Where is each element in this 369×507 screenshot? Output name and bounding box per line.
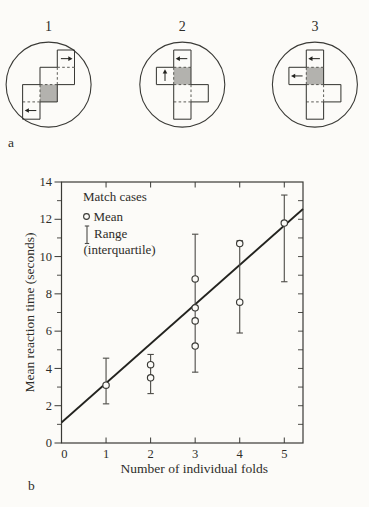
y-tick-label: 8 [46, 287, 52, 301]
y-axis-title: Mean reaction time (seconds) [22, 232, 37, 392]
reaction-time-chart: 02468101214012345Number of individual fo… [0, 160, 369, 507]
panel-a-label: a [8, 136, 14, 150]
mean-point [103, 382, 109, 388]
shaded-face [306, 67, 323, 84]
mean-point [192, 276, 198, 282]
mean-point [147, 375, 153, 381]
x-axis: 012345 [61, 182, 287, 461]
mean-point [237, 299, 243, 305]
fold-arrow-left-icon [176, 56, 188, 61]
x-axis-title: Number of individual folds [121, 461, 268, 476]
stimulus-3: 3 [272, 19, 357, 127]
error-bar-x5 [281, 195, 287, 282]
mean-point [192, 343, 198, 349]
stimulus-number: 1 [45, 19, 52, 34]
mean-point [237, 240, 243, 246]
y-tick-label: 12 [40, 212, 53, 226]
mean-point [192, 305, 198, 311]
mean-point [147, 362, 153, 368]
fold-arrow-left-icon [291, 74, 303, 79]
legend-title: Match cases [83, 189, 147, 204]
panel-b-label: b [28, 479, 35, 493]
y-tick-label: 10 [40, 250, 53, 264]
legend: Match casesMeanRange(interquartile) [83, 189, 156, 257]
y-tick-label: 4 [46, 362, 53, 376]
mean-point [192, 318, 198, 324]
shaded-face [40, 85, 57, 102]
legend-mean-icon [84, 214, 90, 220]
x-tick-label: 0 [61, 447, 67, 461]
x-tick-label: 4 [237, 447, 244, 461]
stimulus-number: 3 [311, 19, 318, 34]
legend-range-note: (interquartile) [84, 242, 156, 257]
y-axis: 02468101214 [40, 175, 62, 450]
y-tick-label: 0 [46, 436, 52, 450]
paper-folding-stimuli: 123 [0, 0, 369, 160]
y-tick-label: 6 [46, 324, 52, 338]
fold-arrow-up-icon [163, 69, 168, 81]
stimulus-2: 2 [140, 19, 225, 127]
stimulus-number: 2 [179, 19, 186, 34]
x-tick-label: 5 [281, 447, 287, 461]
fold-arrow-left-icon [308, 56, 320, 61]
y-tick-label: 2 [46, 399, 52, 413]
legend-mean-label: Mean [94, 209, 124, 224]
legend-range-label: Range [94, 226, 127, 241]
figure-page: 123 02468101214012345Number of individua… [0, 0, 369, 507]
right-axis [298, 201, 303, 425]
mean-point [281, 220, 287, 226]
fold-arrow-right-icon [61, 56, 73, 61]
stimulus-1: 1 [6, 19, 91, 127]
x-tick-label: 2 [147, 447, 153, 461]
fold-arrow-left-icon [25, 108, 37, 113]
y-tick-label: 14 [40, 175, 53, 189]
x-tick-label: 1 [103, 447, 109, 461]
error-bar-x4 [237, 241, 243, 333]
x-tick-label: 3 [192, 447, 198, 461]
shaded-face [174, 67, 191, 84]
